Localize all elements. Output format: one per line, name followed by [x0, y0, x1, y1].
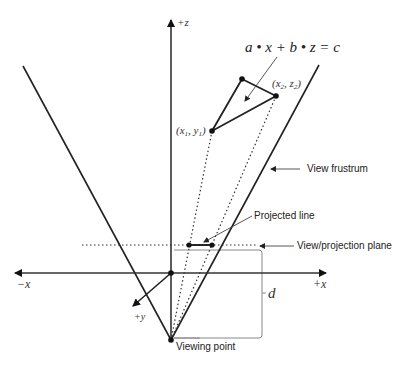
- projection-ray-1: [171, 131, 212, 340]
- frustum-left-edge: [23, 66, 171, 340]
- view-frustum-label: View frustrum: [307, 163, 368, 174]
- projected-point-2: [209, 242, 214, 247]
- point-1-label: (x1, y1): [176, 124, 206, 138]
- y-axis-label: +y: [134, 311, 146, 322]
- projected-point-1: [186, 242, 191, 247]
- y-axis: [133, 273, 171, 306]
- viewing-point-dot: [168, 337, 174, 343]
- x-axis-negative-label: −x: [17, 277, 31, 291]
- distance-label: d: [268, 285, 276, 301]
- viewing-point-label: Viewing point: [176, 341, 236, 352]
- z-axis-label: +z: [177, 16, 189, 28]
- point-1-dot: [209, 128, 215, 134]
- distance-bracket: [174, 250, 262, 338]
- origin-dot: [168, 270, 174, 276]
- frustum-right-edge: [171, 65, 319, 340]
- projected-line-label: Projected line: [254, 210, 315, 221]
- projection-plane-label: View/projection plane: [297, 240, 392, 251]
- point-2-label: (x2, z2): [272, 77, 301, 91]
- perspective-diagram: d +z +x −x +y Viewing point a • x + b • …: [0, 0, 396, 365]
- plane-equation: a • x + b • z = c: [245, 39, 340, 55]
- point-2-dot: [273, 93, 279, 99]
- triangle-plane: [212, 79, 276, 131]
- triangle-vertex-top: [239, 76, 245, 82]
- projected-line-pointer: [204, 216, 252, 242]
- x-axis-positive-label: +x: [313, 277, 327, 291]
